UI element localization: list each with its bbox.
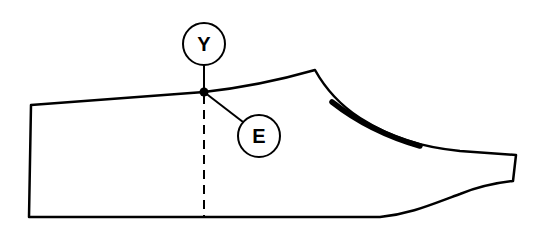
e-leader-line xyxy=(204,92,243,122)
callout-e-label: E xyxy=(252,125,265,147)
highlighted-edge xyxy=(332,102,420,146)
callout-e: E xyxy=(238,115,280,157)
shoe-pattern-diagram: Y E xyxy=(0,0,538,232)
callout-y-label: Y xyxy=(197,33,211,55)
marker-point xyxy=(200,88,209,97)
callout-y: Y xyxy=(183,23,225,65)
